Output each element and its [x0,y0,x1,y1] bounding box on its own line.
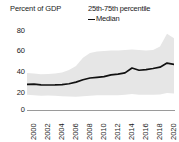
y-axis-title: Percent of GDP [10,4,61,13]
legend-line-swatch-icon [88,19,95,20]
legend-item-median: Median [88,14,150,24]
x-tick-label-2010: 2010 [100,123,108,140]
x-tick-label-2002: 2002 [44,123,52,140]
x-axis-line [27,110,175,111]
percentile-band-area [27,34,174,97]
x-tick-label-2000: 2000 [30,123,38,140]
y-tick-label-20: 20 [3,89,25,97]
legend-label-percentile-band: 25th-75th percentile [88,4,150,14]
y-tick-label-60: 60 [3,47,25,55]
y-tick-label-80: 80 [3,27,25,35]
x-tick-label-2020: 2020 [170,123,178,140]
legend-label-median: Median [96,14,119,24]
x-tick-label-2012: 2012 [114,123,122,140]
chart-figure: Percent of GDP 25th-75th percentile Medi… [0,0,179,142]
chart-legend: 25th-75th percentile Median [88,4,150,24]
y-tick-label-0: 0 [3,106,25,114]
plot-area [27,28,174,110]
x-axis-tick-labels: 2000200220042006200820102012201420162018… [27,112,174,142]
x-tick-label-2004: 2004 [58,123,66,140]
x-tick-label-2014: 2014 [128,123,136,140]
x-tick-label-2016: 2016 [142,123,150,140]
x-tick-label-2018: 2018 [156,123,164,140]
x-tick-label-2008: 2008 [86,123,94,140]
x-tick-label-2006: 2006 [72,123,80,140]
y-tick-label-40: 40 [3,68,25,76]
legend-item-percentile-band: 25th-75th percentile [88,4,150,14]
plot-svg [27,28,174,110]
